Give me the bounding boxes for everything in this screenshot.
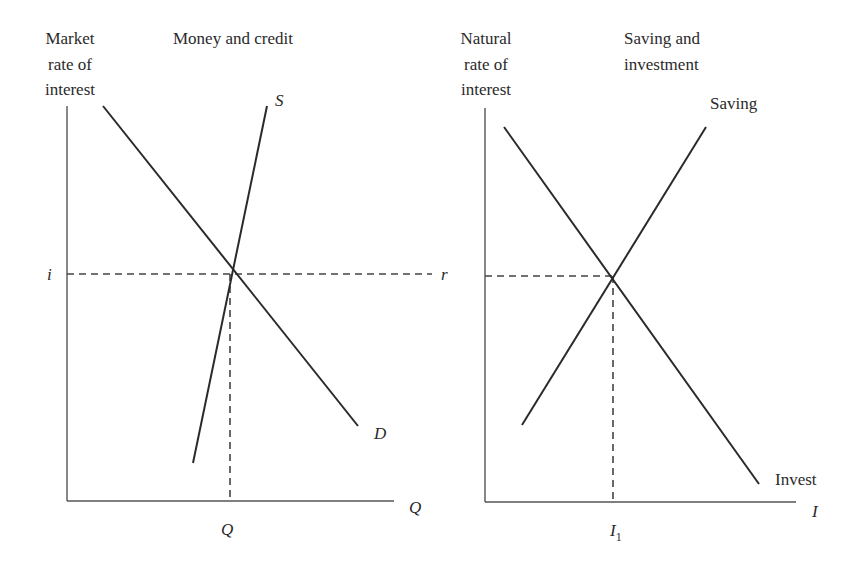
interest-i-label: i bbox=[47, 265, 52, 284]
left-y-axis-label-line3: interest bbox=[45, 80, 95, 99]
left-panel-title: Money and credit bbox=[173, 29, 293, 48]
demand-label: D bbox=[373, 424, 387, 443]
i1-subscript: 1 bbox=[616, 530, 622, 544]
left-y-axis-label-line1: Market bbox=[45, 29, 94, 48]
diagram-canvas: Market rate of interest Money and credit… bbox=[0, 0, 865, 567]
right-y-axis-label-line2: rate of bbox=[464, 55, 508, 74]
right-y-axis-label-line3: interest bbox=[461, 80, 511, 99]
left-x-axis-label: Q bbox=[409, 498, 421, 517]
right-panel-title-line1: Saving and bbox=[624, 29, 701, 48]
rate-r-label: r bbox=[441, 265, 448, 284]
right-x-axis-label: I bbox=[811, 502, 819, 521]
equilibrium-i1-label: I1 bbox=[609, 521, 622, 544]
left-y-axis-label-line2: rate of bbox=[48, 55, 92, 74]
right-y-axis-label-line1: Natural bbox=[461, 29, 512, 48]
right-panel: Natural rate of interest Saving and inve… bbox=[461, 29, 819, 544]
right-panel-title-line2: investment bbox=[624, 55, 699, 74]
invest-label: Invest bbox=[775, 470, 817, 489]
supply-label: S bbox=[275, 91, 284, 110]
saving-label: Saving bbox=[710, 94, 758, 113]
demand-curve bbox=[103, 106, 358, 426]
left-panel: Market rate of interest Money and credit… bbox=[45, 29, 448, 539]
equilibrium-q-label: Q bbox=[221, 520, 233, 539]
investment-curve bbox=[504, 127, 759, 484]
